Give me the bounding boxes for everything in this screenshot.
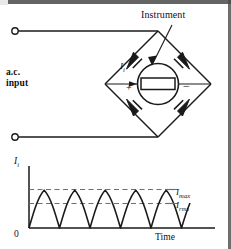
label-imax: Imax (176, 188, 190, 200)
terminal-bottom-input (12, 134, 18, 140)
label-irms: Irms (176, 201, 189, 213)
label-graph-y-axis-subscript: i (17, 161, 19, 168)
label-polarity-positive: + (126, 83, 132, 94)
label-graph-x-axis: Time (155, 233, 175, 243)
label-imax-subscript: max (179, 192, 190, 199)
label-polarity-negative: − (183, 80, 190, 93)
label-irms-subscript: rms (179, 205, 189, 212)
label-instrument: Instrument (141, 10, 185, 21)
label-ac-input-line1: a.c. (6, 68, 20, 78)
circuit-group (12, 25, 211, 140)
terminal-top-input (12, 28, 18, 34)
waveform-rectified-current (29, 190, 190, 228)
label-bridge-current-subscript: i (123, 66, 125, 73)
label-graph-y-axis: Ii (14, 157, 19, 169)
figure-canvas (0, 0, 231, 249)
instrument-scale-bar (141, 78, 175, 90)
label-bridge-current: Ii (120, 62, 125, 74)
figure-bridge-rectifier: Instrument a.c. input Ii + − Ii Imax Irm… (0, 0, 231, 249)
label-ac-input-line2: input (6, 79, 28, 89)
label-graph-origin: 0 (14, 230, 19, 240)
